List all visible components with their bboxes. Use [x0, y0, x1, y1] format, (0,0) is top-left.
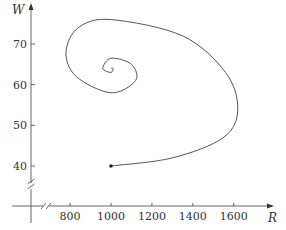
x-axis-label: R [267, 211, 277, 225]
start-point-marker [109, 164, 113, 168]
trajectory-curve [66, 19, 238, 166]
y-tick-label: 40 [13, 160, 27, 173]
y-axis-arrow-icon [29, 3, 34, 10]
y-tick-label: 50 [13, 119, 27, 132]
tick-labels: 800100012001400160040506070 [13, 38, 248, 223]
y-tick-label: 60 [13, 79, 27, 92]
y-tick-label: 70 [13, 38, 27, 51]
x-tick-label: 1400 [179, 210, 207, 223]
axis-ticks [31, 44, 234, 206]
x-tick-label: 1600 [220, 210, 248, 223]
x-tick-label: 1000 [97, 210, 125, 223]
x-tick-label: 800 [60, 210, 81, 223]
x-tick-label: 1200 [138, 210, 166, 223]
x-axis-arrow-icon [267, 204, 274, 209]
phase-plot: 800100012001400160040506070 W R [0, 0, 286, 230]
y-axis-label: W [12, 3, 26, 17]
